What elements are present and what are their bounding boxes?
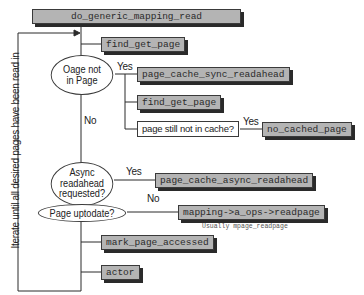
edge-label-no: No: [84, 115, 96, 126]
decision-text: readahead: [60, 178, 104, 189]
actor-box: actor: [101, 265, 140, 280]
no-cached-page-box: no_cached_page: [262, 122, 352, 137]
decision-text: requested?: [59, 188, 105, 199]
decision-text: Oage not: [63, 64, 101, 75]
decision-text: Async: [69, 167, 94, 178]
readpage-box: mapping->a_ops->readpage: [178, 205, 325, 220]
edge-label-yes: Yes: [117, 61, 132, 72]
sync-readahead-box: page_cache_sync_readahead: [137, 67, 290, 82]
edge-label-yes: Yes: [126, 166, 141, 177]
decision-page-not-in-cache: Oage notin Page: [51, 55, 114, 95]
mark-page-accessed-box: mark_page_accessed: [101, 235, 214, 250]
decision-still-not-in-cache: page still not in cache?: [137, 121, 239, 137]
decision-page-uptodate: Page uptodate?: [38, 204, 126, 222]
async-readahead-box: page_cache_async_readahead: [155, 173, 313, 188]
decision-async-readahead: Asyncreadaheadrequested?: [51, 162, 114, 206]
find-get-page-box-2: find_get_page: [137, 95, 221, 110]
readpage-note: Usually mpage_readpage: [202, 223, 288, 230]
root-function-box: do_generic_mapping_read: [32, 9, 241, 24]
edge-label-no: No: [147, 193, 159, 204]
loop-label: Iterate until all desired pages have bee…: [10, 26, 21, 276]
find-get-page-box: find_get_page: [101, 37, 185, 52]
decision-text: in Page: [66, 75, 97, 86]
edge-label-yes: Yes: [243, 116, 258, 127]
